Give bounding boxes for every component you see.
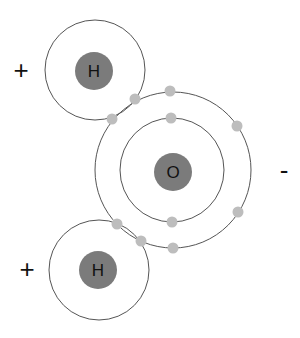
electron-oxygen-outer-right-lower [233, 207, 244, 218]
charge-minus: - [280, 155, 289, 185]
electron-oxygen-outer-right-upper [232, 121, 243, 132]
hydrogen-bottom-label: H [92, 261, 104, 280]
oxygen-label: O [166, 163, 179, 182]
electron-oxygen-outer-top [165, 86, 176, 97]
electron-shared-top-1 [130, 94, 141, 105]
electron-shared-bottom-2 [136, 236, 147, 247]
electron-oxygen-inner-bottom [167, 217, 178, 228]
water-molecule-diagram: H O H + - + [0, 0, 300, 338]
electron-oxygen-inner-top [166, 113, 177, 124]
electron-oxygen-outer-bottom [168, 243, 179, 254]
hydrogen-atom-bottom: H [49, 220, 149, 320]
electron-shared-top-2 [107, 114, 118, 125]
charge-plus-top: + [13, 55, 28, 85]
charge-plus-bottom: + [19, 254, 34, 284]
electron-shared-bottom-1 [112, 219, 123, 230]
hydrogen-top-label: H [88, 62, 100, 81]
